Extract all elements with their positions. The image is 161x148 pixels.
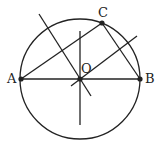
label-o: O — [81, 61, 92, 76]
point-b — [137, 76, 142, 81]
point-o — [77, 76, 82, 81]
segment-bisector-ac — [39, 14, 91, 96]
label-c: C — [98, 5, 108, 20]
segment-BC — [102, 23, 140, 79]
point-c — [99, 20, 104, 25]
point-a — [18, 76, 23, 81]
geometry-diagram: ABCO — [0, 0, 161, 148]
label-b: B — [145, 71, 155, 86]
label-a: A — [6, 71, 17, 86]
